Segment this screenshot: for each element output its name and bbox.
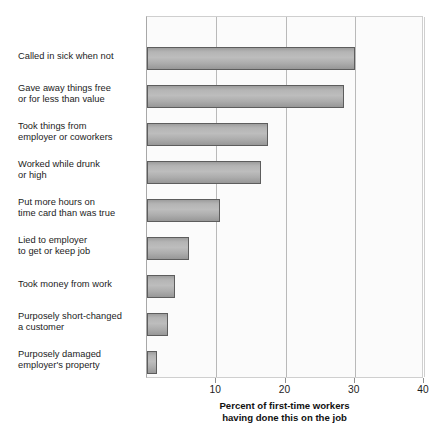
category-label-7: Purposely short-changeda customer (18, 311, 146, 334)
category-label-1-line-0: Gave away things free (18, 83, 146, 95)
category-label-4: Put more hours ontime card than was true (18, 197, 146, 220)
category-label-2-line-1: employer or coworkers (18, 132, 146, 144)
bar-0 (147, 47, 355, 70)
category-label-2: Took things fromemployer or coworkers (18, 121, 146, 144)
x-axis-title-line-1: Percent of first-time workers (219, 400, 349, 411)
bar-1 (147, 85, 344, 108)
x-axis-title-line-2: having done this on the job (146, 412, 423, 424)
bar-5 (147, 237, 189, 260)
gridline-40 (424, 17, 425, 377)
tick-label-30: 30 (334, 384, 374, 396)
tick-label-20: 20 (265, 384, 305, 396)
category-label-3-line-1: or high (18, 170, 146, 182)
category-label-8-line-0: Purposely damaged (18, 349, 146, 361)
tick-mark-30 (354, 378, 355, 383)
category-label-6: Took money from work (18, 279, 146, 291)
category-label-3: Worked while drunkor high (18, 159, 146, 182)
bar-3 (147, 161, 261, 184)
category-label-0-line-0: Called in sick when not (18, 51, 146, 63)
bars-layer (147, 17, 422, 377)
tick-mark-40 (423, 378, 424, 383)
category-label-1-line-1: or for less than value (18, 94, 146, 106)
category-label-4-line-0: Put more hours on (18, 197, 146, 209)
bar-4 (147, 199, 220, 222)
category-label-8: Purposely damagedemployer's property (18, 349, 146, 372)
tick-mark-20 (285, 378, 286, 383)
category-label-1: Gave away things freeor for less than va… (18, 83, 146, 106)
x-axis-title: Percent of first-time workers having don… (146, 400, 423, 425)
category-label-3-line-0: Worked while drunk (18, 159, 146, 171)
bar-7 (147, 313, 168, 336)
bar-6 (147, 275, 175, 298)
category-label-column: Called in sick when notGave away things … (0, 0, 145, 380)
plot-area (146, 16, 423, 378)
category-label-5: Lied to employerto get or keep job (18, 235, 146, 258)
x-axis-tick-labels: 10203040 (0, 384, 441, 398)
category-label-7-line-0: Purposely short-changed (18, 311, 146, 323)
category-label-7-line-1: a customer (18, 322, 146, 334)
category-label-8-line-1: employer's property (18, 360, 146, 372)
category-label-6-line-0: Took money from work (18, 279, 146, 291)
category-label-0: Called in sick when not (18, 51, 146, 63)
bar-chart: Called in sick when notGave away things … (0, 0, 441, 439)
category-label-4-line-1: time card than was true (18, 208, 146, 220)
bar-8 (147, 351, 157, 374)
category-label-2-line-0: Took things from (18, 121, 146, 133)
category-label-5-line-1: to get or keep job (18, 246, 146, 258)
tick-mark-10 (215, 378, 216, 383)
bar-2 (147, 123, 268, 146)
tick-label-10: 10 (195, 384, 235, 396)
tick-label-40: 40 (403, 384, 441, 396)
category-label-5-line-0: Lied to employer (18, 235, 146, 247)
